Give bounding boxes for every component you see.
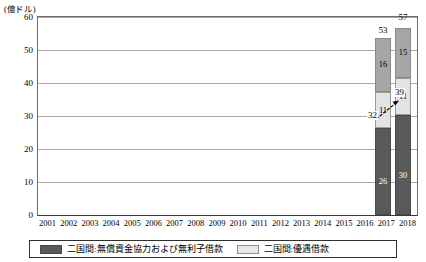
bar-2017-label-other: 16 [376,60,390,69]
xtick-2007: 2007 [166,218,183,228]
plot-area: 26 11 16 53 30 11 15 [37,16,418,216]
ytick-label-40: 40 [5,79,33,88]
bar-2017-segment-other: 16 [375,38,391,91]
xtick-2008: 2008 [187,218,204,228]
bars-layer: 26 11 16 53 30 11 15 [38,17,417,215]
xtick-2015: 2015 [336,218,353,228]
ytick-label-10: 10 [5,178,33,187]
xtick-2013: 2013 [293,218,310,228]
legend-swatch-light-icon [237,245,259,254]
bar-2017-segment-grants: 26 [375,128,391,215]
ytick-label-30: 30 [5,112,33,121]
xtick-2010: 2010 [230,218,247,228]
bar-2017-label-loans: 11 [376,106,390,115]
xtick-2002: 2002 [60,218,77,228]
bar-2018[interactable]: 30 11 15 57 [395,25,411,215]
xtick-2011: 2011 [251,218,268,228]
legend-item-loans[interactable]: 二国間:優遇借款 [237,244,330,254]
x-axis: 2001 2002 2003 2004 2005 2006 2007 2008 … [37,218,418,232]
callout-2018-subtotal: 39 [394,88,405,97]
xtick-2005: 2005 [124,218,141,228]
legend-item-grants[interactable]: 二国間:無償資金協力および無利子借款 [40,244,223,254]
ytick-label-0: 0 [5,211,33,220]
ytick-label-50: 50 [5,46,33,55]
legend-label-grants: 二国間:無償資金協力および無利子借款 [67,244,223,254]
xtick-2006: 2006 [145,218,162,228]
xtick-2016: 2016 [357,218,374,228]
xtick-2003: 2003 [82,218,99,228]
bar-2017-label-grants: 26 [376,177,390,186]
ytick-label-20: 20 [5,145,33,154]
bar-2017-total-label: 53 [371,26,395,35]
bar-2017-segment-loans: 11 [375,92,391,129]
xtick-2014: 2014 [314,218,331,228]
xtick-2009: 2009 [209,218,226,228]
bar-2017[interactable]: 26 11 16 53 [375,38,391,215]
xtick-2001: 2001 [39,218,56,228]
bar-2018-label-other: 15 [396,48,410,57]
bar-2018-segment-grants: 30 [395,115,411,215]
xtick-2017: 2017 [378,218,395,228]
legend-swatch-dark-icon [40,245,62,254]
ytick-label-60: 60 [5,13,33,22]
bar-2018-total-label: 57 [391,13,415,22]
bar-2018-label-grants: 30 [396,171,410,180]
xtick-2004: 2004 [103,218,120,228]
xtick-2018: 2018 [399,218,416,228]
legend-label-loans: 二国間:優遇借款 [264,244,330,254]
chart-legend: 二国間:無償資金協力および無利子借款 二国間:優遇借款 [29,240,397,258]
xtick-2012: 2012 [272,218,289,228]
bar-2018-segment-other: 15 [395,28,411,78]
chart-root: (億ドル) 26 11 16 53 [0,0,426,262]
callout-2017-subtotal: 32 [367,111,378,120]
